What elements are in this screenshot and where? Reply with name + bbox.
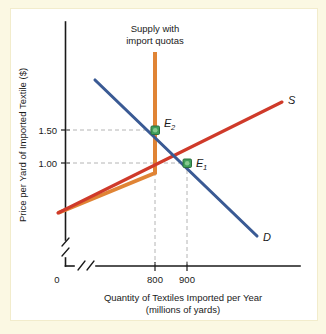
y-tick-label-100: 1.00 <box>39 158 58 169</box>
x-axis-break-icon <box>78 261 94 270</box>
demand-curve-label: D <box>263 231 271 243</box>
quota-annotation-line1: Supply with <box>131 23 180 34</box>
equilibrium-markers <box>151 126 192 168</box>
e2-label-subscript: 2 <box>170 123 176 132</box>
x-tick-label-900: 900 <box>179 274 195 285</box>
supply-demand-figure: 1.50 1.00 0 800 900 Price per Yard of Im… <box>0 0 326 334</box>
curves <box>58 52 282 236</box>
e1-marker-core <box>185 161 190 166</box>
e1-label-group: E 1 <box>196 157 207 172</box>
e2-label-group: E 2 <box>164 117 176 132</box>
e2-marker-core <box>153 128 158 133</box>
chart-screenshot: 1.50 1.00 0 800 900 Price per Yard of Im… <box>0 0 326 334</box>
x-tick-label-800: 800 <box>147 274 163 285</box>
x-tick-label-0: 0 <box>54 274 59 285</box>
demand-curve <box>95 80 257 236</box>
y-axis-title: Price per Yard of Imported Textile ($) <box>17 68 28 222</box>
x-axis-title-line2: (millions of yards) <box>146 304 220 315</box>
supply-curve-label: S <box>288 94 296 106</box>
equilibrium-point-e1 <box>183 159 192 168</box>
equilibrium-point-e2 <box>151 126 160 135</box>
y-tick-label-150: 1.50 <box>39 125 58 136</box>
quota-annotation-line2: import quotas <box>126 35 184 46</box>
e1-label-subscript: 1 <box>203 163 207 172</box>
x-axis-title-line1: Quantity of Textiles Imported per Year <box>104 292 262 303</box>
